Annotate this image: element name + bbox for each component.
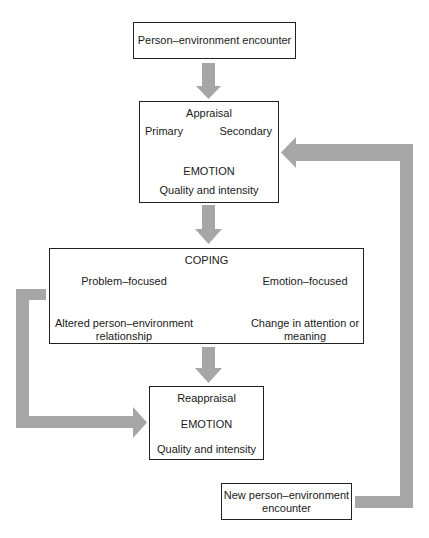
arrow-encounter-to-appraisal (196, 63, 221, 99)
coping-emotion-outcome-line1: Change in attention or (246, 317, 364, 330)
appraisal-box: Appraisal Primary Secondary EMOTION Qual… (139, 101, 279, 203)
coping-problem-outcome-line2: relationship (54, 330, 194, 343)
coping-box: COPING Problem–focused Altered person–en… (49, 248, 364, 344)
reappraisal-title: Reappraisal (150, 392, 263, 405)
encounter-label: Person–environment encounter (134, 34, 295, 47)
coping-problem-outcome-line1: Altered person–environment (54, 317, 194, 330)
reappraisal-quality: Quality and intensity (150, 443, 263, 456)
arrow-appraisal-to-coping (195, 205, 222, 244)
arrow-coping-to-reappraisal (195, 347, 222, 383)
encounter-box: Person–environment encounter (133, 22, 296, 59)
coping-emotion-outcome-line2: meaning (246, 330, 364, 343)
coping-problem-focused: Problem–focused (74, 275, 174, 288)
coping-emotion-focused: Emotion–focused (255, 275, 355, 288)
appraisal-secondary: Secondary (219, 125, 272, 138)
reappraisal-box: Reappraisal EMOTION Quality and intensit… (149, 386, 264, 460)
appraisal-title: Appraisal (140, 107, 278, 120)
reappraisal-emotion: EMOTION (150, 418, 263, 431)
appraisal-primary: Primary (145, 125, 183, 138)
appraisal-quality: Quality and intensity (140, 184, 278, 197)
new-encounter-line1: New person–environment (222, 489, 351, 502)
appraisal-emotion: EMOTION (140, 165, 278, 178)
new-encounter-box: New person–environment encounter (221, 483, 352, 520)
new-encounter-line2: encounter (222, 502, 351, 515)
coping-title: COPING (50, 254, 363, 267)
